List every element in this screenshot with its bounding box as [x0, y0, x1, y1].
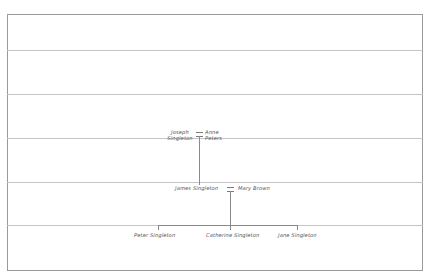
descent-line-1	[199, 136, 200, 185]
sibling-tick-3	[297, 225, 298, 230]
row-divider-1	[7, 50, 423, 51]
person-catherine-singleton: Catherine Singleton	[206, 232, 259, 238]
person-joseph-singleton: Joseph Singleton	[166, 129, 194, 141]
person-surname: Singleton	[166, 135, 194, 141]
row-divider-4	[7, 182, 423, 183]
person-jane-singleton: Jane Singleton	[278, 232, 317, 238]
descent-line-2	[230, 191, 231, 226]
person-james-singleton: James Singleton	[175, 185, 218, 191]
person-surname: Peters	[205, 135, 221, 141]
sibling-bar	[158, 225, 298, 226]
person-peter-singleton: Peter Singleton	[134, 232, 175, 238]
sibling-tick-2	[230, 225, 231, 230]
row-divider-2	[7, 94, 423, 95]
person-mary-brown: Mary Brown	[238, 185, 270, 191]
person-anne-peters: Anne Peters	[205, 129, 221, 141]
sibling-tick-1	[158, 225, 159, 230]
